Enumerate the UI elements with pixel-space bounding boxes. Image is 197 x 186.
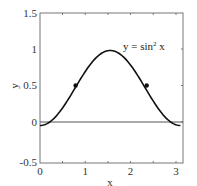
- y-tick-label: 1: [32, 43, 38, 55]
- x-tick-label: 1: [83, 165, 89, 177]
- axes-box: [40, 13, 183, 163]
- x-tick-label: 2: [128, 165, 134, 177]
- y-tick-label: 0: [32, 116, 38, 128]
- x-axis-label: x: [107, 176, 113, 186]
- x-tick-label: 0: [37, 165, 43, 177]
- inflection-point-right: [145, 83, 149, 87]
- curve-annotation: y = sin2 x: [123, 40, 165, 52]
- x-ticks: [63, 13, 184, 163]
- y-axis-label: y: [8, 83, 20, 89]
- y-tick-label: 1.5: [23, 7, 37, 19]
- x-tick-label: 3: [173, 165, 179, 177]
- inflection-point-left: [73, 83, 77, 87]
- sin-squared-curve: [40, 51, 180, 126]
- chart: 0 1 2 3 -0.5 0 0.5 1 1.5 x y y = sin2 x: [0, 0, 197, 186]
- y-tick-label: -0.5: [20, 156, 38, 168]
- y-tick-label: 0.5: [23, 79, 37, 91]
